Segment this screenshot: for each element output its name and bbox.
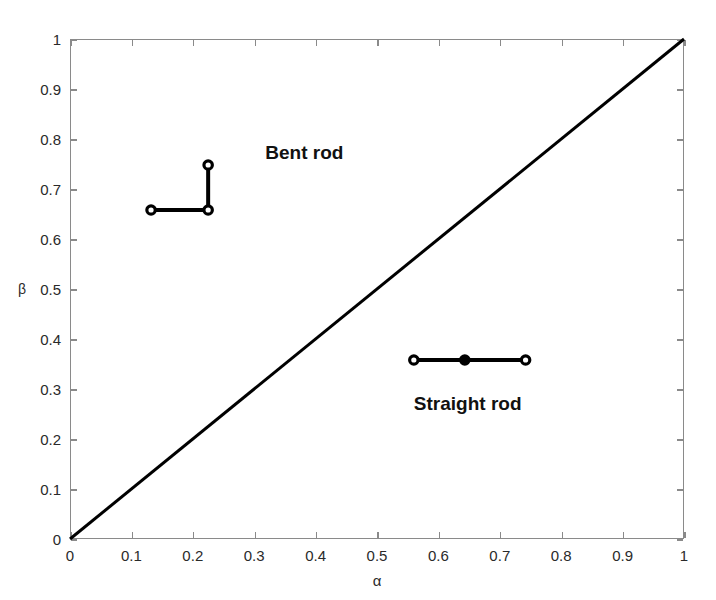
y-tick-left [71,339,77,340]
y-tick-right [677,289,683,290]
y-tick-label: 0.4 [40,331,61,348]
x-tick-top [623,40,624,46]
y-tick-left [71,489,77,490]
x-tick-top [562,40,563,46]
y-axis-label: β [18,281,26,297]
y-tick-label: 0.9 [40,81,61,98]
y-tick-right [677,539,683,540]
y-tick-label: 0 [53,531,61,548]
x-tick-bottom [684,532,685,538]
x-tick-bottom [623,532,624,538]
chart-annotation: Bent rod [265,142,343,164]
y-tick-left [71,239,77,240]
y-tick-label: 0.5 [40,281,61,298]
chart-page: 00.10.20.30.40.50.60.70.80.91 00.10.20.3… [0,0,716,600]
y-tick-label: 0.1 [40,481,61,498]
x-tick-bottom [70,532,71,538]
y-tick-label: 1 [53,31,61,48]
x-tick-label: 0.8 [551,547,572,564]
y-tick-right [677,189,683,190]
y-tick-label: 0.3 [40,381,61,398]
x-tick-bottom [316,532,317,538]
x-tick-label: 0 [66,547,74,564]
x-tick-label: 0.2 [182,547,203,564]
x-tick-bottom [377,532,378,538]
x-tick-bottom [255,532,256,538]
x-tick-label: 0.9 [612,547,633,564]
y-tick-label: 0.8 [40,131,61,148]
x-tick-top [132,40,133,46]
x-tick-top [377,40,378,46]
y-tick-left [71,539,77,540]
x-tick-bottom [193,532,194,538]
x-tick-label: 0.1 [121,547,142,564]
y-tick-label: 0.2 [40,431,61,448]
y-tick-left [71,389,77,390]
x-tick-bottom [562,532,563,538]
x-tick-top [70,40,71,46]
y-tick-right [677,489,683,490]
x-axis-label: α [373,572,382,589]
x-tick-label: 0.6 [428,547,449,564]
x-tick-label: 0.7 [489,547,510,564]
x-tick-top [500,40,501,46]
y-tick-right [677,439,683,440]
x-tick-label: 0.4 [305,547,326,564]
y-tick-right [677,39,683,40]
y-tick-left [71,39,77,40]
y-tick-left [71,439,77,440]
y-tick-left [71,289,77,290]
x-tick-label: 0.5 [367,547,388,564]
x-tick-label: 0.3 [244,547,265,564]
x-tick-top [255,40,256,46]
y-tick-right [677,339,683,340]
y-tick-right [677,139,683,140]
y-tick-right [677,89,683,90]
y-tick-left [71,139,77,140]
y-tick-left [71,89,77,90]
x-tick-bottom [132,532,133,538]
x-tick-top [439,40,440,46]
y-tick-right [677,389,683,390]
y-tick-left [71,189,77,190]
y-tick-right [677,239,683,240]
x-tick-top [684,40,685,46]
x-tick-top [193,40,194,46]
plot-area [70,39,684,539]
x-tick-label: 1 [680,547,688,564]
x-tick-top [316,40,317,46]
chart-annotation: Straight rod [414,393,522,415]
y-tick-label: 0.6 [40,231,61,248]
x-tick-bottom [439,532,440,538]
x-tick-bottom [500,532,501,538]
y-tick-label: 0.7 [40,181,61,198]
